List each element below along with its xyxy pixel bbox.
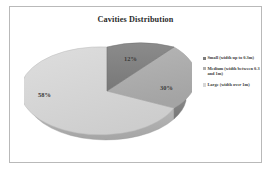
chart-legend: Small (width up to 0.3m) Medium (width b… bbox=[203, 55, 263, 92]
legend-item-large[interactable]: Large (width over 1m) bbox=[203, 82, 263, 88]
legend-label-small: Small (width up to 0.3m) bbox=[207, 55, 253, 61]
legend-label-medium: Medium (width between 0.3 and 1m) bbox=[207, 66, 263, 77]
legend-item-medium[interactable]: Medium (width between 0.3 and 1m) bbox=[203, 66, 263, 77]
pie-label-medium: 30% bbox=[160, 84, 173, 91]
legend-swatch-small bbox=[203, 57, 206, 60]
pie-label-small: 12% bbox=[124, 55, 137, 62]
chart-frame: Cavities Distribution bbox=[9, 6, 262, 163]
legend-label-large: Large (width over 1m) bbox=[207, 82, 249, 88]
pie-label-large: 58% bbox=[38, 91, 51, 98]
legend-swatch-medium bbox=[203, 67, 206, 70]
chart-title: Cavities Distribution bbox=[10, 15, 261, 24]
legend-swatch-large bbox=[203, 83, 206, 86]
pie-chart[interactable]: 12% 30% 58% bbox=[24, 33, 192, 151]
legend-item-small[interactable]: Small (width up to 0.3m) bbox=[203, 55, 263, 61]
